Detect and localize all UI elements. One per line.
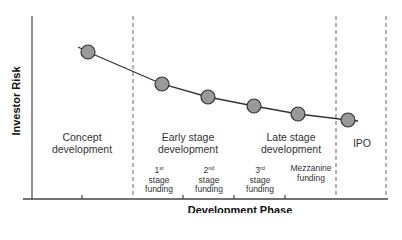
marker-1st-stage <box>155 77 169 91</box>
funding-label-mezzanine: Mezzanine funding <box>286 164 336 183</box>
marker-concept <box>81 45 95 59</box>
marker-3rd-stage <box>247 99 261 113</box>
risk-markers <box>81 45 355 127</box>
funding-label-2nd: 2nd stage funding <box>186 165 232 195</box>
phase-label-ipo: IPO <box>338 137 386 149</box>
funding-label-3rd: 3rd stage funding <box>237 165 283 195</box>
phase-label-late: Late stage development <box>246 131 336 155</box>
phase-label-concept: Concept development <box>42 131 122 155</box>
funding-label-1st: 1st stage funding <box>136 165 182 195</box>
x-axis-label: Development Phase <box>140 204 340 213</box>
risk-line <box>78 47 358 121</box>
marker-2nd-stage <box>201 90 215 104</box>
y-axis-label: Investor Risk <box>10 51 22 151</box>
phase-label-early: Early stage development <box>143 131 233 155</box>
marker-ipo <box>341 113 355 127</box>
marker-mezzanine <box>291 107 305 121</box>
